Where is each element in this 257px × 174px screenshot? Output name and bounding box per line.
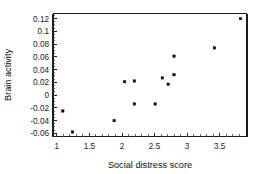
x-tick-label: 3	[185, 142, 190, 151]
data-point	[71, 131, 74, 134]
y-tick-label: 0.04	[33, 66, 49, 75]
y-tick-label: -0.04	[30, 117, 49, 126]
data-point	[133, 80, 136, 83]
y-tick-label: 0.06	[33, 53, 49, 62]
x-tick-label: 2	[120, 142, 125, 151]
data-point	[239, 17, 242, 20]
x-tick-label: 3.5	[214, 142, 226, 151]
data-point-series	[61, 17, 241, 133]
data-point	[133, 103, 136, 106]
y-tick-label: -0.06	[30, 129, 49, 138]
data-point	[61, 110, 64, 113]
y-axis-title: Brain activity	[3, 49, 13, 101]
y-tick-label: 0.08	[33, 40, 49, 49]
x-tick-label: 1	[55, 142, 60, 151]
data-point	[167, 83, 170, 86]
x-axis-tick-labels: 11.522.533.5	[55, 142, 226, 151]
plot-frame	[53, 14, 247, 137]
y-tick-label: 0.12	[33, 15, 49, 24]
y-tick-label: 0	[44, 91, 49, 100]
data-point	[173, 73, 176, 76]
x-tick-label: 2.5	[149, 142, 161, 151]
data-point	[213, 47, 216, 50]
y-tick-label: 0.02	[33, 78, 49, 87]
data-point	[113, 119, 116, 122]
y-tick-label: 0.1	[38, 27, 50, 36]
x-axis-ticks	[57, 133, 220, 137]
data-point	[123, 80, 126, 83]
x-tick-label: 1.5	[84, 142, 96, 151]
data-point	[161, 77, 164, 80]
chart-canvas: 0.120.10.080.060.040.020-0.02-0.04-0.06 …	[0, 0, 257, 174]
x-axis-title: Social distress score	[108, 160, 192, 170]
data-point	[173, 55, 176, 58]
y-axis-tick-labels: 0.120.10.080.060.040.020-0.02-0.04-0.06	[30, 15, 49, 139]
scatter-plot-figure: 0.120.10.080.060.040.020-0.02-0.04-0.06 …	[0, 0, 257, 174]
y-tick-label: -0.02	[30, 104, 49, 113]
data-point	[154, 103, 157, 106]
